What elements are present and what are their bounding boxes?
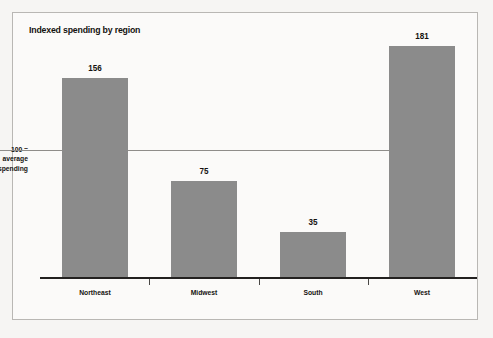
category-label-northeast: Northeast — [47, 288, 142, 297]
bar-south — [280, 232, 346, 277]
bar-northeast — [62, 78, 128, 277]
axis-tick — [368, 279, 369, 285]
bar-value-northeast: 156 — [52, 63, 138, 73]
category-label-west: West — [374, 288, 469, 297]
bar-value-west: 181 — [379, 31, 465, 41]
chart-title: Indexed spending by region — [29, 24, 140, 35]
category-label-midwest: Midwest — [156, 288, 251, 297]
axis-tick — [259, 279, 260, 285]
reference-label-line-2: average — [0, 154, 28, 164]
axis-tick — [149, 279, 150, 285]
bar-value-midwest: 75 — [161, 166, 247, 176]
bar-midwest — [171, 181, 237, 277]
bar-west — [389, 46, 455, 277]
bar-value-south: 35 — [270, 217, 356, 227]
chart-canvas: Indexed spending by region 100 = average… — [0, 0, 493, 338]
category-label-south: South — [265, 288, 360, 297]
reference-label-line-3: spending — [0, 164, 28, 174]
